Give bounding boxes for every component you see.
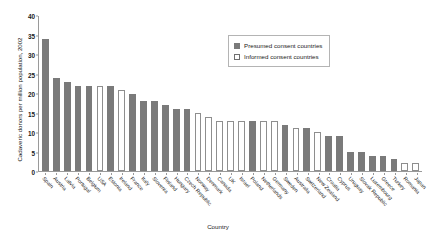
x-tick-slot: Germany	[269, 173, 280, 219]
bar-israel	[238, 121, 245, 171]
x-tick-slot: Estonia	[106, 173, 117, 219]
bar-spain	[42, 39, 49, 171]
bar-denmark	[205, 117, 212, 171]
x-tick-label: UK	[227, 176, 236, 185]
bar-czech-republic	[184, 109, 191, 171]
bar-hungary	[173, 109, 180, 171]
y-tick-mark	[36, 152, 38, 153]
bar-uk	[227, 121, 234, 171]
bar-slot	[116, 16, 127, 171]
x-tick-slot: Spain	[40, 173, 51, 219]
y-tick-label: 0	[31, 169, 35, 176]
bar-latvia	[64, 82, 71, 171]
x-tick-slot: UK	[226, 173, 237, 219]
bar-romania	[401, 163, 408, 171]
y-tick-label: 15	[28, 110, 35, 117]
bar-slot	[94, 16, 105, 171]
y-tick-mark	[36, 35, 38, 36]
bar-belgium	[86, 86, 93, 171]
legend-item-presumed: Presumed consent countries	[234, 40, 322, 51]
bar-slot	[182, 16, 193, 171]
y-tick-label: 30	[28, 52, 35, 59]
bar-chart: Cadaveric donors per million population,…	[0, 0, 436, 239]
y-tick-mark	[36, 55, 38, 56]
x-tick-slot: Canada	[215, 173, 226, 219]
x-tick-slot: Romania	[400, 173, 411, 219]
bar-switzerland	[303, 128, 310, 171]
y-tick-mark	[36, 172, 38, 173]
bar-germany	[271, 121, 278, 171]
x-tick-slot: Finland	[160, 173, 171, 219]
x-tick-slot: Denmark	[204, 173, 215, 219]
y-tick-label: 35	[28, 32, 35, 39]
bar-usa	[97, 86, 104, 171]
bar-slot	[127, 16, 138, 171]
x-tick-slot: Latvia	[62, 173, 73, 219]
bar-sweden	[282, 125, 289, 172]
bar-portugal	[75, 86, 82, 171]
bar-slot	[51, 16, 62, 171]
x-tick-slot: Hungary	[171, 173, 182, 219]
bar-canada	[216, 121, 223, 171]
bar-new-zealand	[314, 132, 321, 171]
legend-swatch-presumed-icon	[234, 43, 240, 49]
chart-legend: Presumed consent countries Informed cons…	[228, 35, 330, 67]
legend-item-informed: Informed consent countries	[234, 51, 322, 62]
bar-luxembourg	[369, 156, 376, 172]
bar-cyprus	[336, 136, 343, 171]
bar-slot	[84, 16, 95, 171]
bar-ireland	[118, 90, 125, 171]
bar-slot	[192, 16, 203, 171]
x-tick-slot: New Zealand	[313, 173, 324, 219]
bar-netherlands	[260, 121, 267, 171]
y-tick-label: 40	[28, 13, 35, 20]
bar-norway	[195, 113, 202, 171]
x-tick-label: Japan	[413, 176, 427, 190]
bar-slot	[378, 16, 389, 171]
x-tick-slot: USA	[95, 173, 106, 219]
bar-slot	[73, 16, 84, 171]
x-tick-slot: Norway	[193, 173, 204, 219]
bar-greece	[380, 156, 387, 172]
bar-australia	[293, 128, 300, 171]
bar-slot	[105, 16, 116, 171]
bar-croatia	[325, 136, 332, 171]
x-tick-slot: Slovenia	[149, 173, 160, 219]
x-tick-slot: Uruguay	[346, 173, 357, 219]
y-tick-label: 25	[28, 71, 35, 78]
x-tick-slot: France	[127, 173, 138, 219]
bar-slot	[399, 16, 410, 171]
bar-austria	[53, 78, 60, 171]
x-tick-slot: Switzerland	[302, 173, 313, 219]
x-tick-slot: Australia	[291, 173, 302, 219]
x-axis-title: Country	[0, 223, 436, 230]
y-axis-title: Cadaveric donors per million population,…	[16, 25, 23, 175]
y-tick-mark	[36, 74, 38, 75]
legend-swatch-informed-icon	[234, 54, 240, 60]
bar-slovak-republic	[358, 152, 365, 171]
y-tick-mark	[36, 113, 38, 114]
x-tick-slot: Slovak Republic	[357, 173, 368, 219]
x-tick-slot: Italy	[138, 173, 149, 219]
y-tick-label: 10	[28, 130, 35, 137]
legend-label-informed: Informed consent countries	[244, 53, 319, 60]
bar-slot	[138, 16, 149, 171]
x-tick-slot: Austria	[51, 173, 62, 219]
x-tick-slot: Greece	[379, 173, 390, 219]
x-axis-ticks: SpainAustriaLatviaPortugalBelgiumUSAEsto…	[39, 173, 423, 219]
bar-slot	[149, 16, 160, 171]
bar-slot	[62, 16, 73, 171]
x-tick-slot: Belgium	[84, 173, 95, 219]
bar-slot	[40, 16, 51, 171]
bar-turkey	[391, 159, 398, 171]
x-tick-slot: Netherlands	[258, 173, 269, 219]
x-tick-slot: Israel	[237, 173, 248, 219]
x-tick-slot: Ireland	[116, 173, 127, 219]
x-tick-slot: Cyprus	[335, 173, 346, 219]
bar-slovenia	[151, 101, 158, 171]
bar-uruguay	[347, 152, 354, 171]
y-tick-label: 5	[31, 149, 35, 156]
bar-slot	[356, 16, 367, 171]
bar-slot	[345, 16, 356, 171]
x-tick-slot: Sweden	[280, 173, 291, 219]
